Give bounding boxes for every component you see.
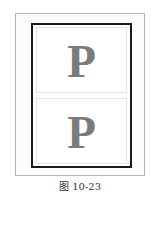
bottom-page-panel: P [36,98,127,164]
top-page-panel: P [36,27,127,93]
top-letter: P [67,38,96,85]
figure-caption: 图 10-23 [0,178,160,193]
bottom-letter: P [67,109,96,156]
